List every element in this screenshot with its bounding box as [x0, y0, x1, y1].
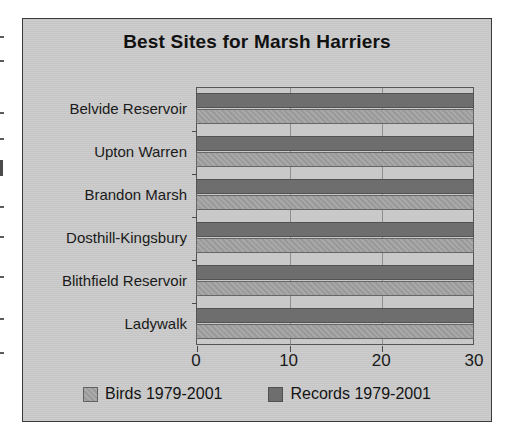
- birds-swatch-icon: [83, 387, 98, 402]
- chart-container: Best Sites for Marsh Harriers Belvide Re…: [22, 18, 492, 422]
- category-axis-labels: Belvide Reservoir Upton Warren Brandon M…: [31, 87, 196, 345]
- scan-edge-mark: [0, 206, 4, 208]
- bar-group: [196, 302, 474, 345]
- bar-records[interactable]: [196, 265, 474, 280]
- bar-birds[interactable]: [196, 281, 474, 296]
- scan-edge-mark: [0, 112, 4, 114]
- category-label: Upton Warren: [31, 130, 196, 173]
- x-axis-labels: 0 10 20 30: [196, 351, 474, 375]
- x-axis-tick-label: 20: [372, 351, 391, 371]
- category-label: Blithfield Reservoir: [31, 259, 196, 302]
- bar-birds[interactable]: [196, 195, 474, 210]
- bar-records[interactable]: [196, 308, 474, 323]
- legend-item-birds[interactable]: Birds 1979-2001: [83, 385, 222, 403]
- bar-group: [196, 173, 474, 216]
- bar-group: [196, 130, 474, 173]
- bar-records[interactable]: [196, 136, 474, 151]
- bar-birds[interactable]: [196, 109, 474, 124]
- figure-canvas: Best Sites for Marsh Harriers Belvide Re…: [0, 0, 514, 438]
- scan-edge-mark: [0, 138, 4, 140]
- bar-group: [196, 87, 474, 130]
- bar-group: [196, 216, 474, 259]
- x-axis-tick-label: 30: [465, 351, 484, 371]
- records-swatch-icon: [268, 387, 283, 402]
- bar-records[interactable]: [196, 93, 474, 108]
- legend-label-birds: Birds 1979-2001: [105, 385, 222, 403]
- category-label: Dosthill-Kingsbury: [31, 216, 196, 259]
- bar-records[interactable]: [196, 222, 474, 237]
- scan-edge-mark: [0, 352, 4, 354]
- bar-birds[interactable]: [196, 324, 474, 339]
- x-axis-tick-label: 10: [279, 351, 298, 371]
- scan-edge-mark: [0, 276, 4, 278]
- bar-group: [196, 259, 474, 302]
- category-label: Brandon Marsh: [31, 173, 196, 216]
- category-label: Belvide Reservoir: [31, 87, 196, 130]
- category-label: Ladywalk: [31, 302, 196, 345]
- legend-label-records: Records 1979-2001: [290, 385, 431, 403]
- scan-edge-mark: [0, 60, 4, 62]
- chart-title: Best Sites for Marsh Harriers: [23, 31, 491, 53]
- bars-layer: [196, 87, 474, 345]
- scan-edge-mark: [0, 236, 4, 238]
- scan-edge-mark: [0, 318, 4, 320]
- chart-legend: Birds 1979-2001 Records 1979-2001: [23, 385, 491, 403]
- scan-edge-mark: [0, 160, 3, 176]
- legend-item-records[interactable]: Records 1979-2001: [268, 385, 431, 403]
- x-axis-tick-label: 0: [191, 351, 200, 371]
- bar-birds[interactable]: [196, 238, 474, 253]
- scan-edge-mark: [0, 36, 4, 38]
- bar-birds[interactable]: [196, 152, 474, 167]
- bar-records[interactable]: [196, 179, 474, 194]
